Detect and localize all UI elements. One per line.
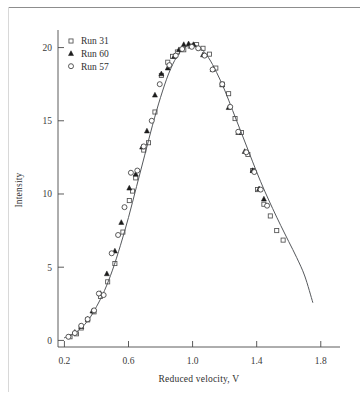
data-point-run-57 [202, 53, 207, 58]
legend-label-run-60: Run 60 [81, 49, 109, 59]
data-point-run-60 [181, 42, 186, 47]
legend-label-run-57: Run 57 [81, 62, 109, 72]
series-run-57 [66, 44, 270, 339]
data-point-run-60 [261, 196, 266, 201]
y-axis-title: Intensity [14, 172, 24, 207]
legend-marker-run-57 [69, 64, 74, 69]
data-point-run-57 [141, 144, 146, 149]
y-tick-label: 10 [43, 189, 53, 199]
data-point-run-57 [66, 334, 71, 339]
data-point-run-57 [149, 118, 154, 123]
x-tick-label: 0.2 [58, 356, 70, 366]
y-tick-label: 5 [47, 263, 52, 273]
data-point-run-60 [104, 271, 109, 276]
legend-marker-run-60 [69, 51, 74, 56]
x-tick-label: 0.6 [123, 356, 135, 366]
data-point-run-31 [275, 229, 279, 233]
chart-legend: Run 31Run 60Run 57 [69, 36, 109, 71]
data-point-run-57 [116, 232, 121, 237]
data-point-run-57 [167, 63, 172, 68]
legend-label-run-31: Run 31 [81, 36, 109, 46]
data-point-run-57 [173, 53, 178, 58]
data-point-run-57 [128, 170, 133, 175]
figure-canvas: 05101520 0.20.61.01.41.8 Run 31Run 60Run… [0, 0, 363, 400]
data-point-run-31 [268, 214, 272, 218]
x-tick-label: 1.4 [251, 356, 263, 366]
data-point-run-57 [157, 82, 162, 87]
data-point-run-60 [144, 128, 149, 133]
data-point-run-57 [79, 323, 84, 328]
data-point-run-57 [244, 150, 249, 155]
data-point-run-57 [220, 82, 225, 87]
data-point-run-57 [265, 203, 270, 208]
x-axis-title: Reduced velocity, V [159, 374, 240, 384]
x-tick-label: 1.0 [187, 356, 199, 366]
data-point-run-60 [152, 92, 157, 97]
data-point-run-57 [210, 67, 215, 72]
series-run-60 [72, 41, 266, 334]
data-point-run-57 [92, 308, 97, 313]
data-point-run-57 [72, 331, 77, 336]
data-point-run-57 [252, 170, 257, 175]
data-point-run-57 [258, 187, 263, 192]
data-point-run-57 [196, 46, 201, 51]
x-tick-label: 1.8 [315, 356, 327, 366]
data-point-run-60 [127, 185, 132, 190]
scatter-chart: 05101520 0.20.61.01.41.8 Run 31Run 60Run… [0, 0, 363, 400]
data-point-run-57 [228, 104, 233, 109]
data-point-run-57 [135, 168, 140, 173]
y-ticks-group: 05101520 [43, 43, 65, 346]
data-point-run-31 [281, 238, 285, 242]
data-point-run-31 [207, 52, 211, 56]
y-tick-label: 15 [43, 116, 53, 126]
data-point-run-60 [119, 220, 124, 225]
data-point-run-57 [101, 293, 106, 298]
x-ticks-group: 0.20.61.01.41.8 [58, 341, 326, 366]
y-tick-label: 0 [47, 336, 52, 346]
data-point-run-57 [122, 205, 127, 210]
data-point-run-57 [85, 317, 90, 322]
data-point-run-57 [96, 291, 101, 296]
data-point-run-57 [109, 251, 114, 256]
legend-marker-run-31 [69, 39, 73, 43]
data-point-run-57 [180, 47, 185, 52]
data-point-run-31 [127, 199, 131, 203]
data-point-run-57 [189, 44, 194, 49]
data-point-run-31 [134, 176, 138, 180]
y-tick-label: 20 [43, 43, 53, 53]
data-point-run-57 [236, 129, 241, 134]
